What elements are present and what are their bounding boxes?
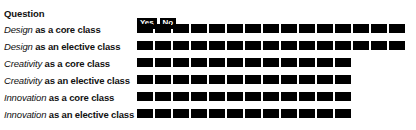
bar-block-yes	[335, 41, 351, 50]
bar-block-yes	[245, 58, 261, 67]
bar-block-yes	[281, 75, 297, 84]
chart-row: Innovation as an elective class	[0, 109, 416, 126]
bar-block-yes	[155, 92, 171, 101]
bar-block-yes	[155, 75, 171, 84]
bar-block-yes	[191, 109, 207, 118]
bar-block-yes	[281, 92, 297, 101]
bar-block-yes	[155, 58, 171, 67]
bar-block-yes	[317, 41, 333, 50]
bar-block-yes	[281, 109, 297, 118]
bar-block-yes	[335, 92, 351, 101]
bar-block-yes	[299, 109, 315, 118]
bar-block-yes	[335, 24, 351, 33]
bar-block-yes	[191, 41, 207, 50]
bar-block-yes	[155, 109, 171, 118]
bar-block-yes	[137, 109, 153, 118]
bar-block-yes	[227, 75, 243, 84]
bar-block-yes	[263, 109, 279, 118]
bar-block-yes	[281, 24, 297, 33]
chart-row: Design as a core class	[0, 24, 416, 41]
bar-block-yes	[389, 24, 405, 33]
bar-block-yes	[281, 41, 297, 50]
bar-block-yes	[299, 58, 315, 67]
bar-block-yes	[245, 41, 261, 50]
bar-block-yes	[317, 109, 333, 118]
bar-block-yes	[155, 24, 171, 33]
bar-block-yes	[173, 92, 189, 101]
bar-block-yes	[281, 58, 297, 67]
bar-block-yes	[191, 75, 207, 84]
question-column-header: Question	[4, 8, 44, 19]
bar-block-yes	[245, 92, 261, 101]
bar-block-yes	[299, 92, 315, 101]
chart-row-label: Creativity as an elective class	[4, 75, 130, 86]
chart-row-subject: Creativity	[4, 58, 42, 69]
bar-block-yes	[209, 75, 225, 84]
chart-row-qualifier: as an elective class	[42, 75, 130, 86]
chart-row-subject: Innovation	[4, 92, 46, 103]
bar-block-yes	[371, 41, 387, 50]
chart-row-bar	[137, 41, 405, 50]
chart-row-bar	[137, 24, 405, 33]
bar-block-yes	[137, 41, 153, 50]
bar-block-yes	[317, 92, 333, 101]
bar-block-yes	[245, 75, 261, 84]
bar-block-yes	[137, 24, 153, 33]
chart-row: Design as an elective class	[0, 41, 416, 58]
bar-block-yes	[173, 41, 189, 50]
chart-row-subject: Design	[4, 24, 33, 35]
chart-row-qualifier: as a core class	[33, 24, 101, 35]
bar-block-yes	[245, 109, 261, 118]
bar-block-yes	[209, 92, 225, 101]
bar-block-yes	[173, 75, 189, 84]
chart-row-label: Innovation as an elective class	[4, 109, 134, 120]
bar-block-yes	[209, 58, 225, 67]
bar-block-yes	[191, 58, 207, 67]
bar-block-yes	[353, 41, 369, 50]
pictograph-bar-chart: Question Yes No Design as a core classDe…	[0, 0, 416, 130]
bar-block-yes	[263, 75, 279, 84]
chart-row-qualifier: as an elective class	[33, 41, 121, 52]
bar-block-yes	[227, 24, 243, 33]
chart-row-bar	[137, 58, 351, 67]
chart-row-subject: Creativity	[4, 75, 42, 86]
bar-block-yes	[317, 58, 333, 67]
bar-block-yes	[263, 92, 279, 101]
bar-block-yes	[299, 41, 315, 50]
bar-block-yes	[209, 24, 225, 33]
chart-row: Innovation as a core class	[0, 92, 416, 109]
bar-block-yes	[353, 24, 369, 33]
bar-block-yes	[191, 92, 207, 101]
chart-row-label: Creativity as a core class	[4, 58, 110, 69]
chart-row-bar	[137, 92, 351, 101]
bar-block-yes	[173, 58, 189, 67]
bar-block-yes	[263, 58, 279, 67]
bar-block-yes	[137, 75, 153, 84]
chart-header-row: Question Yes No	[0, 8, 416, 22]
chart-row-qualifier: as an elective class	[46, 109, 134, 120]
chart-row-bar	[137, 75, 351, 84]
bar-block-yes	[227, 92, 243, 101]
chart-row: Creativity as a core class	[0, 58, 416, 75]
bar-block-yes	[335, 109, 351, 118]
bar-block-yes	[299, 24, 315, 33]
bar-block-yes	[299, 75, 315, 84]
bar-block-yes	[317, 75, 333, 84]
chart-rows: Design as a core classDesign as an elect…	[0, 24, 416, 126]
bar-block-yes	[227, 109, 243, 118]
bar-block-yes	[263, 41, 279, 50]
bar-block-yes	[227, 41, 243, 50]
bar-block-yes	[317, 24, 333, 33]
chart-row-qualifier: as a core class	[42, 58, 110, 69]
bar-block-yes	[173, 109, 189, 118]
chart-row-label: Design as a core class	[4, 24, 101, 35]
chart-row-label: Innovation as a core class	[4, 92, 114, 103]
chart-row-bar	[137, 109, 351, 118]
bar-block-yes	[209, 109, 225, 118]
bar-block-yes	[335, 75, 351, 84]
bar-block-yes	[137, 92, 153, 101]
chart-row: Creativity as an elective class	[0, 75, 416, 92]
chart-row-subject: Innovation	[4, 109, 46, 120]
bar-block-yes	[245, 24, 261, 33]
bar-block-yes	[335, 58, 351, 67]
